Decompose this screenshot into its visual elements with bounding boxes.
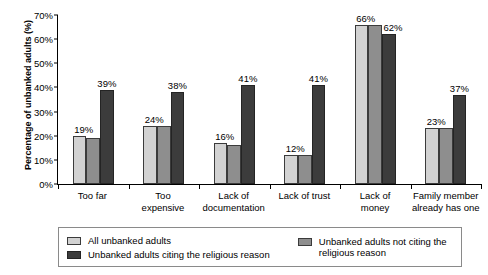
bar: 41% bbox=[241, 85, 255, 184]
bar-group: 19%39% bbox=[58, 15, 129, 184]
bar-group-bars: 24%38% bbox=[143, 15, 184, 184]
x-axis-category-label: Lack ofdocumentation bbox=[198, 190, 269, 213]
legend-swatch-icon bbox=[67, 237, 81, 245]
bar: 12% bbox=[284, 155, 298, 184]
x-tick-mark bbox=[481, 184, 482, 189]
legend-label: Unbanked adults citing the religious rea… bbox=[88, 249, 270, 260]
bar-value-label: 41% bbox=[309, 73, 328, 84]
bar: 16% bbox=[214, 143, 228, 184]
bar-value-label: 39% bbox=[97, 78, 116, 89]
x-axis-category-label: Lack ofmoney bbox=[340, 190, 411, 213]
bar-value-label: 16% bbox=[215, 131, 234, 142]
bar-group: 16%41% bbox=[199, 15, 270, 184]
x-tick-mark bbox=[199, 184, 200, 189]
legend-swatch-icon bbox=[298, 238, 312, 246]
bar-value-label: 23% bbox=[427, 116, 446, 127]
legend-column-left: All unbanked adults Unbanked adults citi… bbox=[59, 228, 290, 266]
bar-value-label: 41% bbox=[238, 73, 257, 84]
bar: 19% bbox=[73, 136, 87, 184]
y-tick-label: 0% bbox=[13, 179, 53, 190]
bar-value-label: 19% bbox=[74, 124, 93, 135]
bar-group-bars: 12%41% bbox=[284, 15, 325, 184]
bar-group: 66%62% bbox=[340, 15, 411, 184]
y-tick-label: 40% bbox=[13, 82, 53, 93]
bar: 23% bbox=[425, 128, 439, 184]
chart-legend: All unbanked adults Unbanked adults citi… bbox=[58, 227, 462, 267]
legend-label: Unbanked adults not citing the religious… bbox=[319, 236, 461, 258]
legend-swatch-icon bbox=[67, 251, 81, 259]
bar-group-bars: 23%37% bbox=[425, 15, 466, 184]
legend-item-citing-religious-reason: Unbanked adults citing the religious rea… bbox=[67, 249, 290, 260]
bar-group-bars: 19%39% bbox=[73, 15, 114, 184]
x-axis-category-label: Family memberalready has one bbox=[410, 190, 481, 213]
x-tick-mark bbox=[411, 184, 412, 189]
bar bbox=[368, 25, 382, 184]
bar: 37% bbox=[453, 95, 467, 184]
bar-group: 23%37% bbox=[411, 15, 482, 184]
bar bbox=[439, 128, 453, 184]
bar-group-bars: 66%62% bbox=[355, 15, 396, 184]
y-tick-label: 20% bbox=[13, 130, 53, 141]
bar-groups: 19%39%24%38%16%41%12%41%66%62%23%37% bbox=[58, 15, 481, 184]
bar-group: 24%38% bbox=[129, 15, 200, 184]
bar: 41% bbox=[312, 85, 326, 184]
y-tick-label: 70% bbox=[13, 10, 53, 21]
legend-item-all-unbanked-adults: All unbanked adults bbox=[67, 235, 290, 246]
bar bbox=[157, 126, 171, 184]
bar-value-label: 12% bbox=[286, 143, 305, 154]
x-tick-mark bbox=[129, 184, 130, 189]
y-tick-label: 60% bbox=[13, 34, 53, 45]
bar bbox=[298, 155, 312, 184]
x-tick-mark bbox=[270, 184, 271, 189]
x-axis-category-label: Tooexpensive bbox=[128, 190, 199, 213]
y-tick-label: 30% bbox=[13, 106, 53, 117]
bar-group-bars: 16%41% bbox=[214, 15, 255, 184]
bar-value-label: 24% bbox=[145, 114, 164, 125]
x-tick-mark bbox=[58, 184, 59, 189]
bar-value-label: 66% bbox=[356, 13, 375, 24]
y-tick-label: 10% bbox=[13, 154, 53, 165]
plot-area: 0%10%20%30%40%50%60%70% 19%39%24%38%16%4… bbox=[57, 15, 481, 185]
x-axis-category-label: Too far bbox=[57, 190, 128, 213]
legend-label: All unbanked adults bbox=[88, 235, 171, 246]
x-axis-category-label: Lack of trust bbox=[269, 190, 340, 213]
bar bbox=[86, 138, 100, 184]
y-tick-label: 50% bbox=[13, 58, 53, 69]
bar-value-label: 37% bbox=[450, 83, 469, 94]
x-axis-labels: Too farTooexpensiveLack ofdocumentationL… bbox=[57, 190, 481, 213]
x-tick-mark bbox=[340, 184, 341, 189]
bar: 38% bbox=[171, 92, 185, 184]
bar-group: 12%41% bbox=[270, 15, 341, 184]
bar bbox=[227, 145, 241, 184]
bar-value-label: 38% bbox=[168, 80, 187, 91]
legend-column-right: Unbanked adults not citing the religious… bbox=[290, 228, 461, 266]
bar: 39% bbox=[100, 90, 114, 184]
bar: 24% bbox=[143, 126, 157, 184]
bar: 66% bbox=[355, 25, 369, 184]
bar: 62% bbox=[382, 34, 396, 184]
bar-chart-figure: Percentage of unbanked adults (%) 0%10%2… bbox=[0, 0, 488, 275]
legend-item-not-citing-religious-reason: Unbanked adults not citing the religious… bbox=[298, 236, 461, 258]
bar-value-label: 62% bbox=[384, 22, 403, 33]
